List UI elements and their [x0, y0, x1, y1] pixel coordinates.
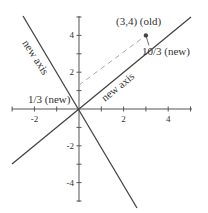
projection-new-label-2: 1/3 (new): [28, 93, 71, 106]
x-tick-label: 2: [121, 114, 126, 124]
projection-dashed-line: [79, 35, 146, 85]
y-tick-label: -4: [67, 178, 75, 188]
y-tick-label: -2: [67, 141, 75, 151]
new-axis-label-b: new axis: [99, 70, 137, 104]
new-axis-line-1: [12, 17, 191, 164]
new-axis-line-2: [23, 16, 137, 208]
x-tick-label: -2: [31, 114, 39, 124]
y-tick-label: 2: [70, 67, 75, 77]
y-tick-label: 4: [70, 30, 75, 40]
coordinate-diagram: -224 42-2-4 (3,4) (old) 10/3 (new) 1/3 (…: [0, 0, 208, 213]
point-old-label: (3,4) (old): [116, 15, 162, 28]
x-tick-label: 4: [166, 114, 171, 124]
projection-new-label-1: 10/3 (new): [142, 45, 190, 58]
